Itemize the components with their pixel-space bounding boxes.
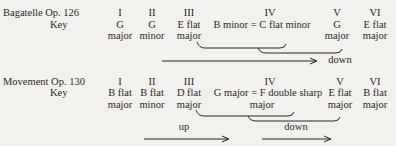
bracket-iv-v xyxy=(248,116,340,121)
brackets-and-arrows xyxy=(0,0,396,146)
bracket-iii-iv xyxy=(196,110,294,116)
bracket-iv-v xyxy=(258,48,342,53)
bracket-iii-iv xyxy=(197,42,286,48)
